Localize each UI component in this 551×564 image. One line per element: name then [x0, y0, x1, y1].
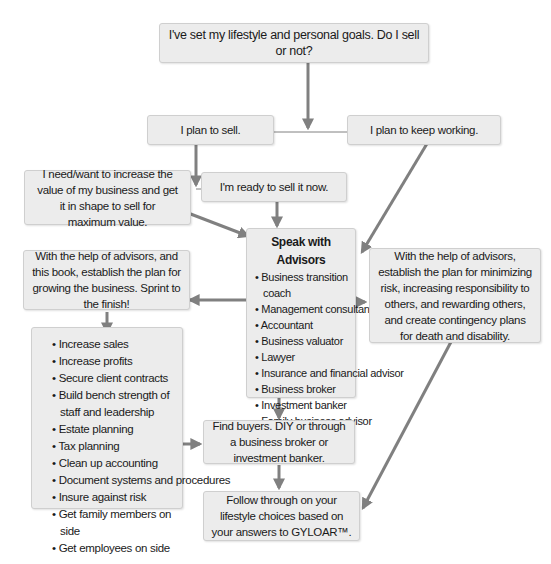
plan-keep-box: I plan to keep working. [347, 115, 501, 145]
task-item: Increase sales [50, 336, 176, 353]
plan-sell-box: I plan to sell. [147, 115, 274, 145]
ready-now-box: I'm ready to sell it now. [201, 172, 347, 202]
arrow-risk-to-follow [363, 340, 452, 508]
task-item: Document systems and procedures [50, 472, 176, 489]
task-item: Build bench strength of staff and leader… [50, 387, 176, 421]
advisor-item: Investment banker [253, 397, 349, 413]
advisor-item: Accountant [253, 317, 349, 333]
advisor-item: Lawyer [253, 349, 349, 365]
follow-through-text: Follow through on your lifestyle choices… [210, 492, 353, 540]
task-item: Insure against risk [50, 489, 176, 506]
advisors-title: Speak with Advisors [253, 233, 349, 269]
task-item: Secure client contracts [50, 370, 176, 387]
find-buyers-text: Find buyers. DIY or through a business b… [212, 418, 346, 466]
advisor-item: Business transition coach [253, 269, 349, 301]
speak-with-advisors-box: Speak with Advisors Business transition … [246, 228, 356, 398]
start-question-box: I've set my lifestyle and personal goals… [159, 23, 429, 63]
plan-sell-text: I plan to sell. [180, 122, 240, 138]
grow-tasks-list: Increase sales Increase profits Secure c… [50, 336, 176, 557]
task-item: Clean up accounting [50, 455, 176, 472]
task-item: Increase profits [50, 353, 176, 370]
task-item: Get family members on side [50, 506, 176, 540]
advisor-item: Business broker [253, 381, 349, 397]
increase-value-text: I need/want to increase the value of my … [35, 166, 180, 230]
follow-through-box: Follow through on your lifestyle choices… [203, 491, 360, 541]
advisors-list: Business transition coach Management con… [253, 269, 349, 429]
advisor-item: Insurance and financial advisor [253, 365, 349, 381]
increase-value-box: I need/want to increase the value of my … [24, 170, 191, 225]
find-buyers-box: Find buyers. DIY or through a business b… [203, 420, 355, 464]
start-question-text: I've set my lifestyle and personal goals… [166, 27, 422, 59]
grow-tasks-box: Increase sales Increase profits Secure c… [31, 327, 183, 509]
risk-plan-box: With the help of advisors, establish the… [369, 248, 541, 343]
advisor-item: Business valuator [253, 333, 349, 349]
grow-plan-text: With the help of advisors, and this book… [30, 248, 183, 312]
risk-plan-text: With the help of advisors, establish the… [378, 248, 532, 344]
task-item: Get employees on side [50, 540, 176, 557]
task-item: Tax planning [50, 438, 176, 455]
advisor-item: Management consultant/coach [253, 301, 349, 317]
grow-plan-box: With the help of advisors, and this book… [23, 250, 190, 310]
arrow-keep-to-advisors [362, 142, 428, 252]
ready-now-text: I'm ready to sell it now. [220, 179, 328, 195]
plan-keep-text: I plan to keep working. [370, 122, 478, 138]
task-item: Estate planning [50, 421, 176, 438]
